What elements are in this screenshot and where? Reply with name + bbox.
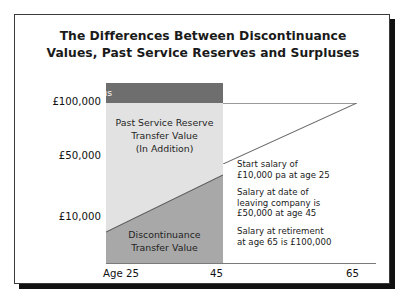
label-past-service-reserve: Past Service Reserve Transfer Value (In … (103, 116, 226, 156)
annotation-leaving-salary: Salary at date of leaving company is £50… (237, 187, 383, 219)
annotation-3-line-1: Salary at retirement (237, 226, 324, 236)
label-disc-line-2: Transfer Value (106, 241, 223, 254)
salary-cap-line (223, 103, 356, 104)
chart-card: The Differences Between Discontinuance V… (14, 14, 390, 284)
annotation-1-line-1: Start salary of (237, 159, 298, 169)
label-psr-line-2: Transfer Value (103, 129, 226, 142)
y-tick-label-10000: £10,000 (17, 211, 101, 222)
annotation-2-line-1: Salary at date of (237, 187, 309, 197)
annotation-3-line-2: at age 65 is £100,000 (237, 237, 331, 247)
chart-page: The Differences Between Discontinuance V… (0, 0, 411, 307)
annotation-2-line-3: £50,000 at age 45 (237, 208, 316, 218)
x-tick-label-45: 45 (210, 268, 223, 279)
annotations-block: Start salary of £10,000 pa at age 25 Sal… (237, 159, 383, 247)
y-tick-label-100000: £100,000 (17, 96, 101, 107)
y-tick-label-50000: £50,000 (17, 150, 101, 161)
annotation-2-line-2: leaving company is (237, 198, 320, 208)
annotation-retirement-salary: Salary at retirement at age 65 is £100,0… (237, 226, 383, 247)
label-discontinuance-transfer-value: Discontinuance Transfer Value (106, 228, 223, 254)
x-axis-line (106, 263, 376, 264)
annotation-1-line-2: £10,000 pa at age 25 (237, 170, 330, 180)
label-disc-line-1: Discontinuance (106, 228, 223, 241)
salary-projection-line (223, 103, 357, 164)
annotation-start-salary: Start salary of £10,000 pa at age 25 (237, 159, 383, 180)
label-psr-line-1: Past Service Reserve (103, 116, 226, 129)
x-tick-label-65: 65 (346, 268, 359, 279)
x-tick-label-age-25: Age 25 (103, 268, 139, 279)
label-psr-line-3: (In Addition) (103, 142, 226, 155)
plot-area: Share of Surplus Past Service Reserve Tr… (15, 15, 391, 285)
